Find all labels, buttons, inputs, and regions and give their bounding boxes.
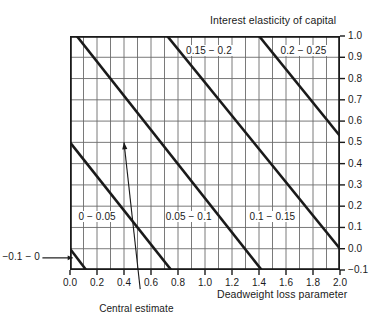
y-tick-label: 0.0 — [348, 243, 362, 254]
x-tick-label: 2.0 — [325, 277, 355, 288]
band-label: 0.2 − 0.25 — [280, 45, 328, 56]
annotation-label: Central estimate — [99, 303, 173, 314]
band-label: 0.15 − 0.2 — [185, 45, 233, 56]
band-label: 0.1 − 0.15 — [249, 211, 297, 222]
y-tick-label: 0.4 — [348, 158, 362, 169]
y-tick-label: 0.9 — [348, 51, 362, 62]
x-tick-label: 1.0 — [190, 277, 220, 288]
x-tick-label: 0.2 — [82, 277, 112, 288]
y-tick-label: 0.2 — [348, 200, 362, 211]
y-tick-label: 0.8 — [348, 73, 362, 84]
y-tick-label: 0.1 — [348, 221, 362, 232]
x-axis-title: Deadweight loss parameter — [217, 288, 347, 300]
plot-svg — [70, 36, 340, 270]
band-label: −0.1 − 0 — [1, 251, 41, 262]
chart-figure: Interest elasticity of capital 1.00.90.8… — [0, 0, 389, 322]
band-label: 0 − 0.05 — [78, 211, 117, 222]
x-tick-label: 0.0 — [55, 277, 85, 288]
grid-lines — [70, 36, 340, 270]
band-label: 0.05 − 0.1 — [165, 211, 213, 222]
x-tick-label: 0.6 — [136, 277, 166, 288]
x-tick-label: 1.4 — [244, 277, 274, 288]
x-tick-label: 1.2 — [217, 277, 247, 288]
y-tick-label: −0.1 — [348, 264, 368, 275]
y-tick-label: 1.0 — [348, 30, 362, 41]
x-tick-label: 0.4 — [109, 277, 139, 288]
y-tick-label: 0.3 — [348, 179, 362, 190]
x-tick-label: 1.6 — [271, 277, 301, 288]
plot-area — [70, 36, 340, 270]
x-tick-label: 1.8 — [298, 277, 328, 288]
x-tick-label: 0.8 — [163, 277, 193, 288]
chart-title: Interest elasticity of capital — [210, 14, 336, 26]
y-tick-label: 0.7 — [348, 94, 362, 105]
y-tick-label: 0.5 — [348, 136, 362, 147]
y-tick-label: 0.6 — [348, 115, 362, 126]
